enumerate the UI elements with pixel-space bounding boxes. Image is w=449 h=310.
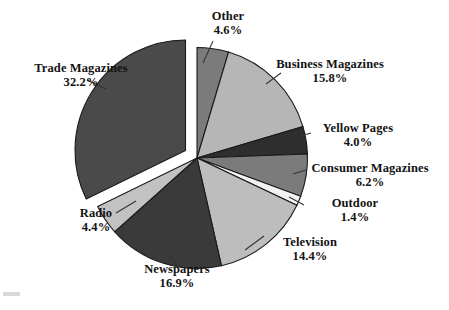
- pie-label-radio-value: 4.4%: [58, 220, 134, 234]
- pie-label-yellow-pages: Yellow Pages 4.0%: [293, 121, 423, 149]
- pie-label-other-value: 4.6%: [183, 23, 273, 37]
- pie-label-newspapers-value: 16.9%: [112, 276, 242, 290]
- pie-label-television-value: 14.4%: [253, 249, 367, 263]
- pie-label-radio-name: Radio: [58, 206, 134, 220]
- pie-label-trade-magazines-value: 32.2%: [12, 75, 150, 89]
- pie-label-outdoor-value: 1.4%: [303, 210, 407, 224]
- pie-label-outdoor-name: Outdoor: [303, 196, 407, 210]
- pie-label-yellow-pages-value: 4.0%: [293, 135, 423, 149]
- pie-label-television: Television 14.4%: [253, 235, 367, 263]
- pie-label-business-magazines-name: Business Magazines: [247, 57, 413, 71]
- pie-label-business-magazines-value: 15.8%: [247, 71, 413, 85]
- pie-label-outdoor: Outdoor 1.4%: [303, 196, 407, 224]
- pie-label-other: Other 4.6%: [183, 9, 273, 37]
- pie-label-television-name: Television: [253, 235, 367, 249]
- pie-label-newspapers-name: Newspapers: [112, 262, 242, 276]
- pie-label-radio: Radio 4.4%: [58, 206, 134, 234]
- pie-label-consumer-magazines-value: 6.2%: [291, 175, 449, 189]
- pie-chart: Other 4.6% Business Magazines 15.8% Yell…: [0, 0, 449, 310]
- pie-label-trade-magazines-name: Trade Magazines: [12, 61, 150, 75]
- pie-label-other-name: Other: [183, 9, 273, 23]
- pie-label-consumer-magazines: Consumer Magazines 6.2%: [291, 161, 449, 189]
- pie-label-business-magazines: Business Magazines 15.8%: [247, 57, 413, 85]
- pie-label-newspapers: Newspapers 16.9%: [112, 262, 242, 290]
- pie-label-yellow-pages-name: Yellow Pages: [293, 121, 423, 135]
- pie-label-trade-magazines: Trade Magazines 32.2%: [12, 61, 150, 89]
- pie-label-consumer-magazines-name: Consumer Magazines: [291, 161, 449, 175]
- scan-artifact-mark: [3, 292, 20, 296]
